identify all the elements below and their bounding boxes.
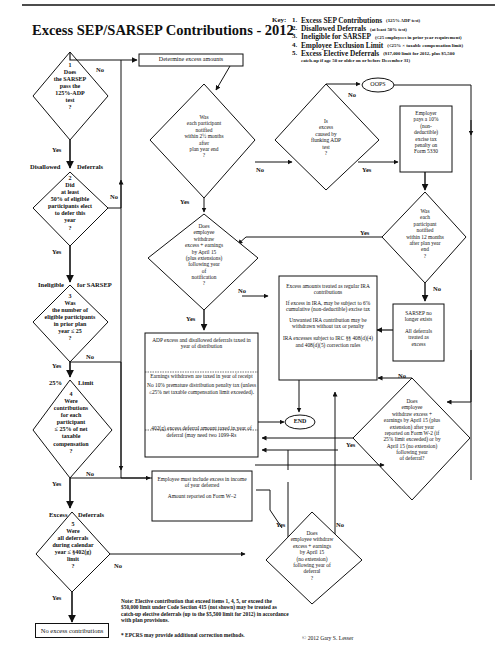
no-excess-box: No excess contributions	[35, 623, 109, 638]
copyright: © 2012 Gary S. Lesser	[302, 635, 353, 641]
sarsep-no-longer-exists-text: SARSEP nolonger exists All deferralstrea…	[393, 310, 444, 347]
diamond-5-text: 5 Wereall deferralsduring calendaryear ≤…	[40, 521, 106, 571]
edge-label-no: No	[86, 470, 94, 477]
edge-label-yes: Yes	[52, 146, 61, 153]
d3-header-right: for SARSEP	[77, 281, 112, 288]
diamond-2-text: 2 Didat least50% of eligibleparticipants…	[36, 175, 104, 232]
edge-label-no: No	[398, 372, 406, 379]
edge-label-no: No	[86, 353, 94, 360]
diamond-1-text: 1 Doesthe SARSEPpass the125%-ADPtest?	[40, 62, 100, 112]
edge-label-no: No	[348, 91, 356, 98]
edge-label-no: No	[256, 166, 264, 173]
employer-penalty-text: Employerpays a 10%(non-deductible)excise…	[400, 110, 452, 155]
withdraw-no-extension-text: Doesemployee withdrawexcess + earningsby…	[278, 530, 346, 581]
flunking-adp-text: Isexcesscaused byflunking ADPtest?	[292, 118, 360, 156]
key-label: Key:	[272, 17, 292, 25]
edge-label-no: No	[433, 285, 441, 292]
end-label: END	[285, 418, 315, 425]
edge-label-yes: Yes	[186, 315, 195, 322]
edge-label-yes: Yes	[52, 480, 61, 487]
key-legend: Key: 1.Excess SEP Contributions(125% ADP…	[272, 17, 463, 63]
oops-label: OOPS	[362, 81, 394, 88]
footer-epcrs: * EPCRS may provide additional correctio…	[121, 632, 301, 638]
withdraw-notification-text: Doesemployeewithdrawexcess + earningsby …	[164, 223, 244, 287]
edge-label-yes: Yes	[52, 362, 61, 369]
edge-label-yes: Yes	[362, 166, 371, 173]
determine-excess-text: Determine excess amounts	[139, 56, 243, 63]
notified-12-months-text: Waseachparticipantnotifiedwithin 12 mont…	[393, 208, 457, 259]
d2-header-left: Disallowed	[30, 163, 60, 170]
edge-label-yes: Yes	[360, 229, 369, 236]
diamond-3-text: 3 Wasthe number ofeligible participantsi…	[34, 293, 106, 343]
edge-label-no: No	[336, 521, 344, 528]
page-title: Excess SEP/SARSEP Contributions - 2012	[32, 22, 294, 39]
edge-label-yes: Yes	[180, 198, 189, 205]
edge-label-no: No	[96, 66, 104, 73]
d3-header-left: Ineligible	[38, 281, 64, 288]
diamond-4-text: 4 Werecontributionsfor eachparticipant≤ …	[38, 391, 104, 455]
edge-label-yes: Yes	[52, 248, 61, 255]
adp-excess-box: ADP excess and disallowed deferrals taxe…	[147, 337, 256, 438]
d4-header-right: Limit	[78, 379, 94, 386]
edge-label-no: No	[114, 562, 122, 569]
edge-label-no: No	[238, 287, 246, 294]
include-income-box: Employee must include excess in income o…	[156, 476, 248, 499]
d5-header-left: Excess	[49, 511, 67, 518]
key-item-name: Excess Elective Deferrals	[301, 50, 379, 58]
edge-label-yes: Yes	[52, 594, 61, 601]
edge-label-no: No	[110, 193, 118, 200]
ira-treatment-box: Excess amounts treated as regular IRA co…	[281, 283, 375, 348]
d4-header-left: 25%	[49, 379, 62, 386]
edge-label-yes: Yes	[276, 521, 285, 528]
d5-header-right: Deferrals	[78, 511, 104, 518]
d2-header-right: Deferrals	[77, 163, 103, 170]
withdraw-w2-text: Doesemployeewithdraw excess +earnings by…	[366, 398, 458, 462]
edge-label-yes: Yes	[346, 441, 355, 448]
notified-2-5-months-text: Waseach participantnotifiedwithin 2½ mon…	[162, 114, 246, 159]
footer-note: Note: Elective contribution that exceed …	[121, 598, 289, 624]
